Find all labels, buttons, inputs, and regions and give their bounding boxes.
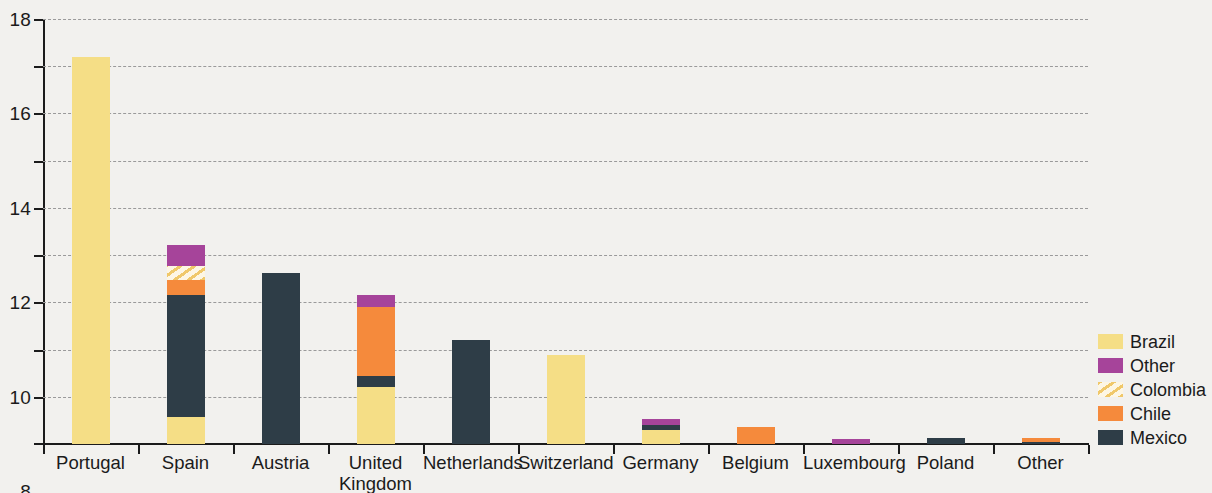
- legend-item[interactable]: Colombia: [1098, 379, 1210, 400]
- legend-item[interactable]: Mexico: [1098, 427, 1210, 448]
- x-category-label: Spain: [138, 452, 233, 473]
- y-gridline: 12: [43, 161, 1088, 162]
- x-category-label: Netherlands: [423, 452, 518, 473]
- bar-stack: [452, 340, 490, 444]
- bar-stack: [167, 245, 205, 444]
- legend-swatch-icon: [1098, 334, 1123, 349]
- bar-stack: [927, 438, 965, 444]
- bar-segment-chile: [357, 307, 395, 375]
- legend-label: Brazil: [1130, 333, 1175, 351]
- legend-label: Colombia: [1130, 381, 1206, 399]
- y-tick-label: 18: [9, 9, 31, 31]
- bar-segment-chile: [737, 427, 775, 444]
- bar-segment-other: [357, 295, 395, 307]
- x-category-label: United Kingdom: [328, 452, 423, 493]
- y-tick-label: 10: [9, 387, 31, 409]
- bar-segment-brazil: [642, 430, 680, 444]
- bar-segment-mexico: [1022, 442, 1060, 444]
- bar-stack: [547, 355, 585, 444]
- bar-segment-colombia: [167, 266, 205, 280]
- bar-stack: [642, 419, 680, 444]
- bar-segment-brazil: [72, 57, 110, 444]
- bar-stack: [737, 427, 775, 444]
- y-tick-mark: [34, 113, 43, 115]
- stacked-bar-chart: 024681012141618 BrazilOtherColombiaChile…: [0, 0, 1212, 493]
- x-category-label: Switzerland: [518, 452, 613, 473]
- x-category-label: Germany: [613, 452, 708, 473]
- y-tick-mark: [34, 397, 43, 399]
- y-tick-mark: [34, 443, 43, 445]
- legend-swatch-icon: [1098, 358, 1123, 373]
- y-tick-mark: [34, 350, 43, 352]
- legend-label: Chile: [1130, 405, 1171, 423]
- legend-swatch-icon: [1098, 430, 1123, 445]
- bar-segment-mexico: [927, 438, 965, 444]
- x-category-label: Portugal: [43, 452, 138, 473]
- legend-swatch-icon: [1098, 382, 1123, 397]
- y-tick-mark: [34, 161, 43, 163]
- x-category-separator: [1088, 445, 1090, 454]
- y-tick-mark: [34, 255, 43, 257]
- bar-segment-chile: [167, 280, 205, 295]
- bar-stack: [1022, 438, 1060, 444]
- y-gridline: 14: [43, 113, 1088, 114]
- x-category-label: Belgium: [708, 452, 803, 473]
- bar-segment-mexico: [357, 376, 395, 388]
- bar-segment-brazil: [547, 355, 585, 444]
- plot-area: 024681012141618: [43, 19, 1088, 444]
- bar-segment-mexico: [262, 273, 300, 444]
- bar-segment-mexico: [452, 340, 490, 444]
- bar-segment-other: [832, 439, 870, 444]
- bar-stack: [262, 273, 300, 444]
- legend-swatch-icon: [1098, 406, 1123, 421]
- x-category-label: Austria: [233, 452, 328, 473]
- legend-item[interactable]: Brazil: [1098, 331, 1210, 352]
- y-tick-label: 12: [9, 292, 31, 314]
- chart-legend: BrazilOtherColombiaChileMexico: [1098, 331, 1210, 451]
- y-tick-mark: [34, 208, 43, 210]
- y-gridline: 10: [43, 208, 1088, 209]
- y-tick-mark: [34, 302, 43, 304]
- y-tick-label: 14: [9, 198, 31, 220]
- y-gridline: 18: [43, 19, 1088, 20]
- y-gridline: 16: [43, 66, 1088, 67]
- bar-stack: [832, 439, 870, 444]
- legend-label: Mexico: [1130, 429, 1187, 447]
- bar-segment-brazil: [167, 417, 205, 444]
- y-tick-mark: [34, 19, 43, 21]
- bar-stack: [72, 57, 110, 444]
- y-tick-mark: [34, 66, 43, 68]
- bar-segment-other: [167, 245, 205, 266]
- x-category-label: Poland: [898, 452, 993, 473]
- legend-item[interactable]: Other: [1098, 355, 1210, 376]
- bar-segment-mexico: [167, 295, 205, 417]
- y-tick-label: 16: [9, 103, 31, 125]
- x-category-label: Other: [993, 452, 1088, 473]
- x-category-label: Luxembourg: [803, 452, 898, 473]
- legend-item[interactable]: Chile: [1098, 403, 1210, 424]
- legend-label: Other: [1130, 357, 1175, 375]
- bar-segment-brazil: [357, 387, 395, 444]
- bar-stack: [357, 295, 395, 444]
- y-tick-label: 8: [20, 481, 31, 493]
